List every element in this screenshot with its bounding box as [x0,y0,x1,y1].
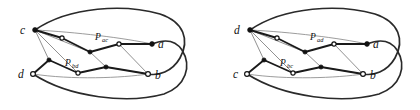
left-label-b: b [155,69,161,81]
left-vertex-c [33,28,38,33]
right-spoke-n2-to-n7 [305,52,321,67]
left-vertex-b [146,72,151,77]
right-internal-node-3 [332,42,336,46]
left-internal-node-7 [104,65,108,69]
left-path-label-bd-sub: bd [72,62,79,69]
right-internal-node-1 [275,36,279,40]
right-vertex-c [245,72,250,77]
graph-figure-svg: c d a b P ac P bd [0,0,420,110]
figure-root: c d a b P ac P bd [0,0,420,110]
left-internal-node-6 [76,71,80,75]
right-label-c: c [233,68,238,80]
right-path-label-bc-sub: bc [287,62,293,69]
left-label-a: a [158,38,164,50]
right-graph: d c a b P ad P bc [233,8,402,98]
right-label-b: b [370,69,376,81]
right-thin-arc-c-to-b [247,74,363,78]
left-internal-node-3 [117,42,121,46]
right-vertex-a [365,42,370,47]
left-spoke-n2-to-n7 [90,52,106,67]
left-vertex-d [31,72,36,77]
left-graph: c d a b P ac P bd [18,8,187,98]
right-path-label-ad: P [309,32,316,42]
left-path-label-ac-sub: ac [102,36,108,43]
left-path-label-ac: P [94,32,101,42]
right-internal-node-6 [291,71,295,75]
left-internal-node-2 [88,50,92,54]
right-vertex-d [248,28,253,33]
right-path-label-ad-sub: ad [317,36,324,43]
left-label-d: d [18,68,24,80]
left-vertex-a [150,42,155,47]
left-internal-node-1 [60,36,64,40]
right-label-d: d [234,24,240,36]
right-label-a: a [373,38,379,50]
right-internal-node-7 [319,65,323,69]
left-thin-arc-d-to-b [33,74,148,78]
left-label-c: c [20,24,25,36]
right-vertex-b [361,72,366,77]
left-path-label-bd: P [64,58,71,68]
right-internal-node-2 [303,50,307,54]
right-internal-node-5 [262,58,266,62]
right-path-label-bc: P [279,58,286,68]
left-internal-node-5 [47,58,51,62]
